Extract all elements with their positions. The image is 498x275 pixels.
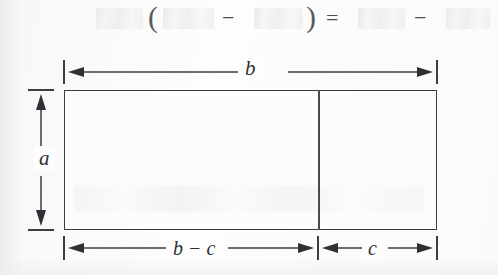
equation-open-paren: ( [148,2,158,34]
dimension-label-a: a [34,146,55,170]
equation-faded-first-product [358,8,405,29]
rectangle-vertical-divider [318,90,320,230]
equation-faded-left-factor [96,8,143,29]
equation-equals-sign: = [326,2,338,34]
bottom-right-dimension-arrowhead-right [417,243,433,253]
left-dimension-arrowhead-top [36,94,46,110]
equation-faded-second-product [446,8,490,29]
dimension-label-b-minus-c: b − c [168,236,220,260]
equation-minus-outside-parens: − [414,2,426,34]
bottom-left-dimension-arrowhead-left [68,243,84,253]
equation-minus-inside-parens: − [222,2,234,34]
figure-root: ( − ) = − [0,0,498,275]
equation-faded-first-term [163,8,214,29]
top-dimension-arrowhead-right [417,67,433,77]
equation-faded-second-term [254,8,303,29]
top-dimension-arrowhead-left [68,67,84,77]
rectangle-outline [64,90,437,230]
caption-equation: ( − ) = − [0,2,498,38]
scan-edge-shadow-bottom [0,257,498,275]
dimension-label-c: c [363,236,382,260]
left-dimension-arrowhead-bottom [36,210,46,226]
bottom-right-dimension-arrowhead-left [322,243,338,253]
dimension-label-b: b [240,56,261,80]
bottom-left-dimension-arrowhead-right [298,243,314,253]
scan-edge-shadow-left [0,0,22,275]
equation-close-paren: ) [306,2,316,34]
